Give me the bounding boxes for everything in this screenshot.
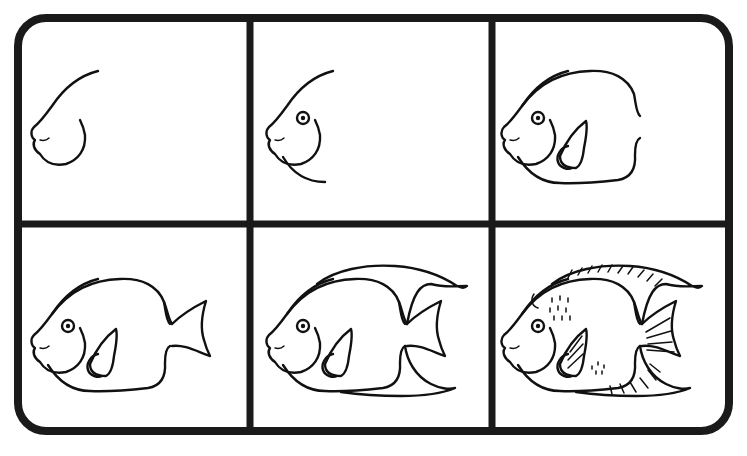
panel-step-3 (501, 71, 640, 183)
panel-step-6 (501, 265, 702, 396)
panel-step-4 (31, 279, 210, 391)
fish-head-sketch (31, 71, 98, 165)
tutorial-sheet (0, 0, 747, 456)
tail-fin (164, 301, 210, 356)
panel-step-5 (266, 266, 467, 396)
pectoral-fin (557, 121, 586, 169)
eye-icon (297, 112, 309, 124)
panel-step-1 (31, 71, 98, 165)
panel-step-2 (266, 71, 333, 182)
dorsal-fin (317, 266, 467, 324)
